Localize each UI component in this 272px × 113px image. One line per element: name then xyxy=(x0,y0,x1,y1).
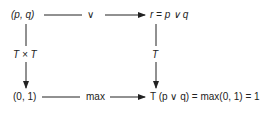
edge-left-label: T × T xyxy=(13,49,37,61)
edge-right-label: T xyxy=(152,49,158,61)
node-bottom-right: T (p ∨ q) = max(0, 1) = 1 xyxy=(150,91,260,103)
node-top-right: r = p ∨ q xyxy=(150,9,188,21)
node-bottom-left: (0, 1) xyxy=(13,91,36,103)
node-top-left: (p, q) xyxy=(11,9,34,21)
edge-bottom-label: max xyxy=(86,91,105,103)
edge-top-label: ∨ xyxy=(87,9,94,21)
